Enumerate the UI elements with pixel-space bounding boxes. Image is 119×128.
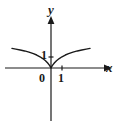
x-tick-one-label: 1 <box>58 72 64 84</box>
y-tick-one-label: 1 <box>41 49 47 61</box>
y-axis-label: y <box>48 3 54 16</box>
coordinate-plot <box>0 0 119 128</box>
x-axis-label: x <box>106 61 113 74</box>
y-axis-arrow-icon <box>48 16 55 24</box>
origin-label: 0 <box>39 72 45 84</box>
math-figure: y x 0 1 1 <box>0 0 119 128</box>
